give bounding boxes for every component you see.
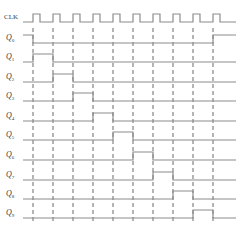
waveform-q9 bbox=[23, 210, 236, 218]
signal-label-clk: CLK bbox=[4, 13, 18, 21]
signal-label-subscript: 8 bbox=[12, 194, 15, 199]
waveform-q3 bbox=[23, 93, 236, 101]
waveform-clk bbox=[23, 14, 236, 22]
waveform-q2 bbox=[23, 74, 236, 82]
signal-label-subscript: 1 bbox=[12, 57, 15, 62]
signal-label-subscript: 7 bbox=[12, 175, 15, 180]
waveform-q7 bbox=[23, 172, 236, 180]
signal-label-subscript: 2 bbox=[12, 77, 15, 82]
signal-label-subscript: 5 bbox=[12, 135, 15, 140]
waveform-q5 bbox=[23, 132, 236, 140]
signal-label-q5: Q5 bbox=[6, 130, 15, 140]
signal-label-subscript: 6 bbox=[12, 155, 15, 160]
signal-label-q9: Q9 bbox=[6, 208, 15, 218]
waveform-q0 bbox=[23, 35, 236, 43]
signal-label-q7: Q7 bbox=[6, 170, 15, 180]
waveform-q8 bbox=[23, 191, 236, 199]
clock-edge-guides bbox=[33, 28, 213, 222]
signal-label-q8: Q8 bbox=[6, 189, 15, 199]
signal-label-q1: Q1 bbox=[6, 52, 15, 62]
signal-label-subscript: 4 bbox=[12, 116, 15, 121]
waveforms bbox=[23, 14, 236, 218]
signal-labels: CLKQ0Q1Q2Q3Q4Q5Q6Q7Q8Q9 bbox=[4, 13, 18, 218]
signal-label-q6: Q6 bbox=[6, 150, 15, 160]
signal-label-q4: Q4 bbox=[6, 111, 15, 121]
signal-label-subscript: 3 bbox=[12, 96, 15, 101]
waveform-q4 bbox=[23, 113, 236, 121]
signal-label-subscript: 9 bbox=[12, 213, 15, 218]
timing-diagram: CLKQ0Q1Q2Q3Q4Q5Q6Q7Q8Q9 bbox=[0, 0, 242, 233]
waveform-q6 bbox=[23, 152, 236, 160]
signal-label-subscript: 0 bbox=[12, 38, 15, 43]
signal-label-q0: Q0 bbox=[6, 33, 15, 43]
waveform-q1 bbox=[23, 54, 236, 62]
signal-label-q3: Q3 bbox=[6, 91, 15, 101]
signal-label-q2: Q2 bbox=[6, 72, 15, 82]
